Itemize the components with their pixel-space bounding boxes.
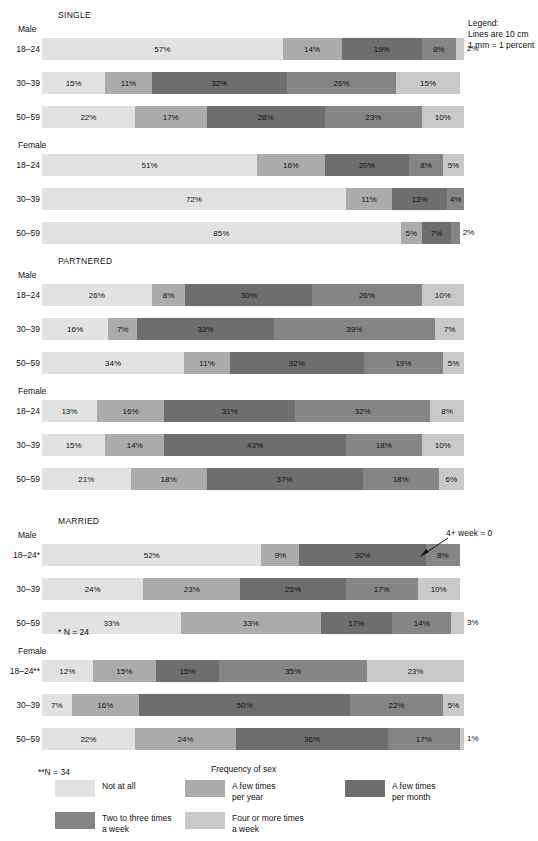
bar-segment-value: 10% bbox=[435, 441, 451, 450]
bar-segment-few-times-per-year: 16% bbox=[257, 154, 325, 176]
row-label-age-group: 50–59 bbox=[0, 728, 40, 750]
bar-segment-value: 16% bbox=[97, 701, 113, 710]
bar-segment-not-at-all: 51% bbox=[42, 154, 257, 176]
legend-swatch-few-times-per-year bbox=[185, 780, 225, 797]
legend-item-few-times-per-month: A few times per month bbox=[345, 780, 435, 802]
legend-label: Four or more times a week bbox=[232, 812, 304, 834]
stacked-bar: 57%14%19%8%2% bbox=[42, 38, 464, 60]
bar-segment-value: 23% bbox=[184, 585, 200, 594]
row-label-age-group: 50–59 bbox=[0, 468, 40, 490]
legend-label: Two to three times a week bbox=[102, 812, 171, 834]
bar-row: 50–5922%24%36%17%1% bbox=[0, 728, 538, 750]
bar-segment-value: 5% bbox=[448, 161, 460, 170]
stacked-bar: 15%11%32%26%15% bbox=[42, 72, 464, 94]
bar-segment-value: 33% bbox=[243, 619, 259, 628]
bar-row: 18–2457%14%19%8%2% bbox=[0, 38, 538, 60]
bar-row: 30–3924%23%25%17%10% bbox=[0, 578, 538, 600]
bar-segment-value: 10% bbox=[435, 113, 451, 122]
bar-segment-four-or-more-week: 5% bbox=[443, 352, 464, 374]
bar-segment-not-at-all: 57% bbox=[42, 38, 283, 60]
bar-row: 30–397%16%50%22%5% bbox=[0, 694, 538, 716]
bar-segment-two-to-three-week: 17% bbox=[388, 728, 460, 750]
bar-segment-few-times-per-month: 33% bbox=[137, 318, 274, 340]
bar-segment-value: 15% bbox=[180, 667, 196, 676]
bar-segment-four-or-more-week: 7% bbox=[435, 318, 464, 340]
bar-segment-value: 33% bbox=[104, 619, 120, 628]
bar-segment-value: 15% bbox=[66, 441, 82, 450]
legend-item-not-at-all: Not at all bbox=[55, 780, 136, 797]
bar-segment-few-times-per-month: 32% bbox=[152, 72, 287, 94]
bar-segment-value: 21% bbox=[78, 475, 94, 484]
bar-segment-value: 17% bbox=[163, 113, 179, 122]
row-label-age-group: 30–39 bbox=[0, 434, 40, 456]
bar-segment-value: 17% bbox=[416, 735, 432, 744]
bar-segment-value: 18% bbox=[376, 441, 392, 450]
bar-segment-few-times-per-month: 31% bbox=[164, 400, 295, 422]
legend-swatch-not-at-all bbox=[55, 780, 95, 797]
bar-segment-few-times-per-year: 5% bbox=[401, 222, 422, 244]
bar-segment-value: 16% bbox=[67, 325, 83, 334]
bar-row: 18–2426%8%30%26%10% bbox=[0, 284, 538, 306]
bar-segment-value: 7% bbox=[51, 701, 63, 710]
row-label-age-group: 30–39 bbox=[0, 318, 40, 340]
bar-segment-four-or-more-week: 5% bbox=[443, 154, 464, 176]
bar-row: 30–3915%11%32%26%15% bbox=[0, 72, 538, 94]
stacked-bar-chart: Legend: Lines are 10 cm 1 mm = 1 percent… bbox=[0, 0, 538, 841]
bar-segment-value: 10% bbox=[435, 291, 451, 300]
bar-segment-two-to-three-week: 8% bbox=[426, 544, 460, 566]
bar-segment-four-or-more-week: 3% bbox=[451, 612, 464, 634]
bar-segment-few-times-per-month: 7% bbox=[422, 222, 452, 244]
bar-segment-two-to-three-week: 39% bbox=[274, 318, 435, 340]
bar-segment-value: 4% bbox=[450, 195, 462, 204]
subgroup-title-male: Male bbox=[18, 24, 36, 34]
annotation-4plus-week-zero: 4+ week = 0 bbox=[446, 528, 492, 538]
row-label-age-group: 18–24 bbox=[0, 38, 40, 60]
bar-segment-few-times-per-month: 28% bbox=[207, 106, 325, 128]
bar-segment-value: 15% bbox=[66, 79, 82, 88]
bar-segment-few-times-per-month: 43% bbox=[164, 434, 345, 456]
legend-item-two-to-three-week: Two to three times a week bbox=[55, 812, 171, 834]
stacked-bar: 21%18%37%18%6% bbox=[42, 468, 464, 490]
bar-segment-two-to-three-week: 32% bbox=[295, 400, 430, 422]
stacked-bar: 33%33%17%14%3% bbox=[42, 612, 464, 634]
bar-segment-value: 16% bbox=[123, 407, 139, 416]
bar-segment-value: 51% bbox=[142, 161, 158, 170]
stacked-bar: 22%24%36%17%1% bbox=[42, 728, 464, 750]
bar-segment-value: 36% bbox=[304, 735, 320, 744]
bar-segment-value: 15% bbox=[420, 79, 436, 88]
bar-segment-value: 2% bbox=[463, 222, 475, 244]
bar-segment-two-to-three-week: 22% bbox=[350, 694, 443, 716]
bar-row: 18–2451%16%20%8%5% bbox=[0, 154, 538, 176]
bar-segment-few-times-per-month: 25% bbox=[240, 578, 346, 600]
bar-segment-value: 32% bbox=[289, 359, 305, 368]
bar-segment-not-at-all: 85% bbox=[42, 222, 401, 244]
bar-segment-value: 22% bbox=[80, 113, 96, 122]
subgroup-title-female: Female bbox=[18, 386, 46, 396]
bar-segment-few-times-per-year: 9% bbox=[261, 544, 299, 566]
bar-segment-value: 31% bbox=[222, 407, 238, 416]
bar-segment-few-times-per-month: 19% bbox=[342, 38, 422, 60]
bar-segment-value: 15% bbox=[116, 667, 132, 676]
stacked-bar: 72%11%13%4% bbox=[42, 188, 464, 210]
legend-item-few-times-per-year: A few times per year bbox=[185, 780, 275, 802]
bar-segment-value: 5% bbox=[448, 359, 460, 368]
subgroup-title-female: Female bbox=[18, 646, 46, 656]
bar-segment-four-or-more-week: 23% bbox=[367, 660, 464, 682]
bar-segment-four-or-more-week: 2% bbox=[456, 38, 464, 60]
bar-segment-two-to-three-week: 19% bbox=[364, 352, 443, 374]
row-label-age-group: 18–24* bbox=[0, 544, 40, 566]
bar-segment-value: 30% bbox=[241, 291, 257, 300]
bar-row: 30–3972%11%13%4% bbox=[0, 188, 538, 210]
footnote-female-married: **N = 34 bbox=[38, 767, 70, 777]
bar-segment-two-to-three-week: 23% bbox=[325, 106, 422, 128]
bar-segment-two-to-three-week: 8% bbox=[422, 38, 456, 60]
bar-segment-two-to-three-week: 35% bbox=[219, 660, 367, 682]
row-label-age-group: 18–24** bbox=[0, 660, 40, 682]
bar-segment-not-at-all: 12% bbox=[42, 660, 93, 682]
bar-segment-few-times-per-month: 50% bbox=[139, 694, 350, 716]
bar-segment-few-times-per-month: 13% bbox=[392, 188, 447, 210]
bar-segment-value: 19% bbox=[395, 359, 411, 368]
bar-segment-value: 1% bbox=[467, 728, 479, 750]
bar-segment-value: 8% bbox=[437, 551, 449, 560]
bar-segment-few-times-per-year: 14% bbox=[283, 38, 342, 60]
